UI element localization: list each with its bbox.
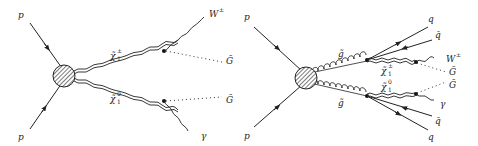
incoming-proton-bottom	[30, 80, 64, 129]
chargino-propagator	[74, 40, 178, 74]
svg-text:1: 1	[117, 55, 121, 62]
quark-line-lower-q	[367, 96, 428, 130]
feynman-diagram-gluino-pair: p p g̃ g̃ χ̃ ± 1 χ̃ 0 1 q q̄ W ± G̃ G̃ γ…	[240, 0, 478, 146]
svg-text:χ̃: χ̃	[380, 66, 387, 76]
label-gluino-upper: g̃	[338, 49, 344, 59]
label-p-bottom: p	[18, 132, 24, 142]
svg-text:W: W	[446, 54, 456, 64]
interaction-blob	[295, 67, 317, 89]
interaction-blob	[53, 65, 75, 87]
svg-text:0: 0	[117, 90, 121, 97]
label-gravitino-lower: G̃	[449, 79, 456, 90]
w-boson-line	[416, 57, 434, 62]
label-qbar-top: q̄	[435, 30, 441, 40]
label-p-top: p	[244, 12, 250, 22]
gravitino-line-upper	[417, 63, 446, 72]
neutralino-propagator	[367, 93, 415, 98]
svg-text:1: 1	[388, 86, 392, 93]
svg-text:1: 1	[117, 98, 121, 105]
svg-text:1: 1	[388, 70, 392, 77]
label-gravitino-upper: G̃	[449, 66, 456, 77]
label-gluino-lower: g̃	[338, 98, 344, 108]
incoming-proton-top	[254, 27, 302, 71]
w-boson-line	[164, 17, 204, 51]
incoming-proton-top	[30, 23, 64, 71]
svg-text:0: 0	[388, 78, 392, 85]
label-photon: γ	[201, 131, 207, 141]
gravitino-line-lower	[166, 97, 222, 101]
svg-text:±: ±	[388, 62, 393, 69]
quark-line-upper-qbar	[367, 40, 432, 60]
label-q-bottom: q	[428, 132, 434, 142]
incoming-proton-bottom	[254, 85, 302, 127]
label-w-boson: W ±	[209, 6, 224, 19]
quark-line-upper-q	[367, 27, 428, 60]
label-neutralino: χ̃ 0 1	[380, 78, 392, 93]
label-photon: γ	[440, 99, 446, 109]
svg-text:±: ±	[219, 6, 224, 13]
label-p-top: p	[18, 10, 24, 20]
svg-text:χ̃: χ̃	[109, 94, 116, 104]
photon-line	[164, 101, 188, 131]
label-w-boson: W ±	[446, 51, 461, 64]
label-qbar-bottom: q̄	[435, 116, 441, 126]
svg-text:W: W	[209, 9, 219, 19]
neutralino-propagator	[74, 78, 178, 112]
feynman-diagram-chargino-neutralino: p p χ̃ ± 1 χ̃ 0 1 W ± G̃ G̃ γ	[0, 0, 240, 146]
label-p-bottom: p	[244, 131, 250, 141]
label-gravitino-upper: G̃	[226, 55, 233, 66]
label-q-top: q	[428, 14, 434, 24]
quark-line-lower-qbar	[367, 96, 432, 116]
gravitino-line-lower	[417, 82, 446, 93]
gravitino-line-upper	[166, 51, 222, 62]
svg-text:χ̃: χ̃	[380, 82, 387, 92]
gluino-propagator-lower	[310, 80, 367, 96]
label-chargino: χ̃ ± 1	[380, 62, 393, 77]
photon-line	[416, 94, 434, 100]
label-chargino: χ̃ ± 1	[109, 47, 122, 62]
svg-text:χ̃: χ̃	[109, 51, 116, 61]
svg-text:±: ±	[456, 51, 461, 58]
svg-text:±: ±	[117, 47, 122, 54]
label-gravitino-lower: G̃	[226, 94, 233, 105]
